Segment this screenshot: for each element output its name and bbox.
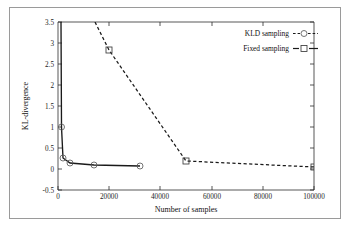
series-kld-sampling	[59, 22, 144, 169]
y-tick-label: 2.5	[45, 61, 54, 69]
y-axis-tick-labels: -0.5 0 0.5 1 1.5 2 2.5 3 3.5	[43, 19, 55, 195]
x-tick-label: 60000	[203, 193, 221, 201]
x-axis-tick-labels: 0 20000 40000 60000 80000 100000	[56, 193, 325, 201]
y-tick-label: 2	[50, 82, 54, 90]
legend-label-fixed-sampling: Fixed sampling	[243, 44, 289, 53]
x-tick-label: 100000	[303, 193, 325, 201]
y-tick-label: 3.5	[45, 19, 54, 27]
x-tick-label: 40000	[151, 193, 169, 201]
figure-root: -0.5 0 0.5 1 1.5 2 2.5 3 3.5 0 20000	[0, 0, 351, 235]
y-tick-label: 1	[50, 124, 54, 132]
kld-sampling-line	[61, 22, 140, 166]
legend-circle-marker	[301, 31, 307, 37]
y-tick-label: 0.5	[45, 145, 54, 153]
y-tick-label: 3	[50, 40, 54, 48]
legend-label-kld-sampling: KLD sampling	[245, 29, 289, 38]
y-tick-label: 1.5	[45, 103, 54, 111]
x-tick-label: 80000	[254, 193, 272, 201]
kl-divergence-chart: -0.5 0 0.5 1 1.5 2 2.5 3 3.5 0 20000	[0, 0, 351, 235]
x-tick-label: 20000	[100, 193, 118, 201]
y-tick-label: 0	[50, 166, 54, 174]
y-axis-title: KL-divergence	[21, 81, 30, 130]
chart-legend: KLD sampling Fixed sampling	[243, 29, 318, 53]
x-axis-title: Number of samples	[155, 205, 218, 214]
x-tick-label: 0	[56, 193, 60, 201]
legend-square-marker	[301, 46, 307, 52]
y-tick-label: -0.5	[43, 187, 55, 195]
